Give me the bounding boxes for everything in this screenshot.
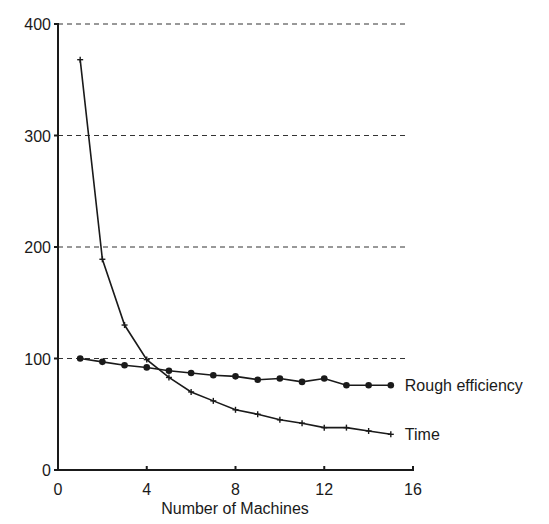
data-point-rough-efficiency-14 [365,382,372,389]
data-point-time-9 [255,411,261,417]
data-point-rough-efficiency-15 [388,382,395,389]
data-point-rough-efficiency-7 [210,372,217,379]
data-point-time-2 [99,256,105,262]
data-point-rough-efficiency-4 [143,364,150,371]
y-tick-label-100: 100 [24,351,51,368]
gridlines [58,24,409,359]
series-line-rough-efficiency [80,359,391,386]
data-point-rough-efficiency-9 [254,376,261,383]
data-point-time-8 [233,407,239,413]
series-rough-efficiency [77,355,394,388]
x-axis-title: Number of Machines [161,500,309,517]
line-chart: 01002003004000481216 Rough efficiencyTim… [0,0,549,524]
data-point-rough-efficiency-6 [188,370,195,377]
x-tick-label-4: 4 [142,481,151,498]
data-point-time-10 [277,417,283,423]
x-tick-label-16: 16 [404,481,422,498]
x-tick-label-12: 12 [315,481,333,498]
data-point-rough-efficiency-13 [343,382,350,389]
y-tick-label-300: 300 [24,128,51,145]
data-point-rough-efficiency-2 [99,359,106,366]
data-point-time-13 [343,425,349,431]
data-point-rough-efficiency-3 [121,362,128,369]
x-tick-label-8: 8 [231,481,240,498]
legend-label-time: Time [405,426,440,443]
data-point-rough-efficiency-10 [277,375,284,382]
data-point-time-14 [366,428,372,434]
legend: Rough efficiencyTime [405,377,523,443]
y-tick-label-400: 400 [24,16,51,33]
legend-label-rough-efficiency: Rough efficiency [405,377,523,394]
data-point-time-7 [210,398,216,404]
data-point-time-11 [299,420,305,426]
data-point-time-12 [321,425,327,431]
data-point-rough-efficiency-1 [77,355,84,362]
data-point-time-1 [77,57,83,63]
data-point-rough-efficiency-5 [166,367,173,374]
data-point-rough-efficiency-8 [232,373,239,380]
x-tick-label-0: 0 [54,481,63,498]
data-point-time-15 [388,431,394,437]
data-point-rough-efficiency-12 [321,375,328,382]
y-tick-label-0: 0 [42,462,51,479]
data-point-rough-efficiency-11 [299,379,306,386]
y-tick-label-200: 200 [24,239,51,256]
